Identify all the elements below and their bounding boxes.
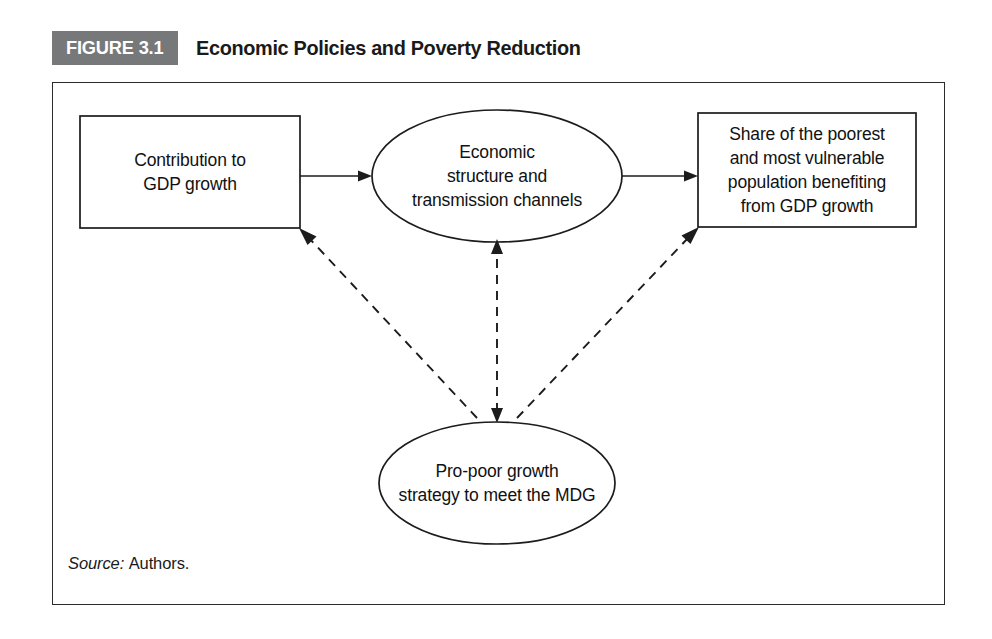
source-value: Authors. xyxy=(129,554,190,572)
figure-root: FIGURE 3.1 Economic Policies and Poverty… xyxy=(0,0,992,639)
source-label: Source: xyxy=(68,554,124,572)
figure-header: FIGURE 3.1 Economic Policies and Poverty… xyxy=(52,31,945,67)
node-structure-label: Economic structure and transmission chan… xyxy=(372,111,622,241)
node-propoor-label: Pro-poor growth strategy to meet the MDG xyxy=(379,423,615,543)
node-contribution-label: Contribution to GDP growth xyxy=(80,116,300,228)
source-note: Source: Authors. xyxy=(68,554,189,573)
figure-title: Economic Policies and Poverty Reduction xyxy=(196,33,581,63)
figure-number-label: FIGURE 3.1 xyxy=(66,37,163,59)
figure-number-badge: FIGURE 3.1 xyxy=(52,31,178,65)
node-share-label: Share of the poorest and most vulnerable… xyxy=(698,113,916,227)
